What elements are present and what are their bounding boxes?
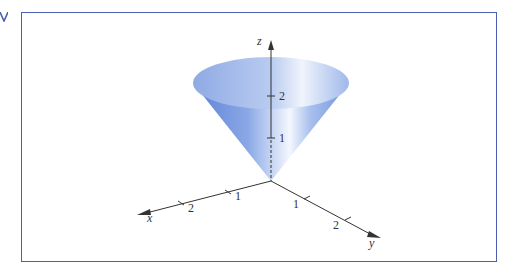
- cone-diagram: z 2 1 x 1 2 y 1 2: [0, 0, 516, 277]
- z-axis-arrow: [268, 40, 274, 50]
- y-axis: [271, 181, 372, 235]
- y-tick-2: [345, 217, 351, 220]
- y-axis-label: y: [368, 236, 375, 250]
- z-axis-label: z: [256, 34, 262, 48]
- z-tick-label-1: 1: [279, 131, 285, 145]
- x-axis-label: x: [146, 211, 153, 225]
- x-tick-label-1: 1: [235, 189, 241, 203]
- y-tick-1: [304, 196, 310, 199]
- x-tick-1: [225, 190, 231, 194]
- x-axis: [150, 181, 271, 212]
- y-tick-label-2: 2: [333, 218, 339, 232]
- z-tick-label-2: 2: [279, 89, 285, 103]
- y-tick-label-1: 1: [293, 197, 299, 211]
- x-tick-label-2: 2: [188, 201, 194, 215]
